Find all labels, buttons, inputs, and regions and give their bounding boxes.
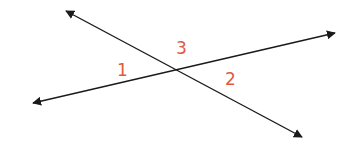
angle-label-2: 2 [225, 69, 236, 89]
angle-label-3: 3 [176, 38, 187, 58]
line-a [66, 11, 302, 137]
angle-label-1: 1 [117, 60, 128, 80]
intersecting-lines-diagram: 1 3 2 [0, 0, 351, 157]
